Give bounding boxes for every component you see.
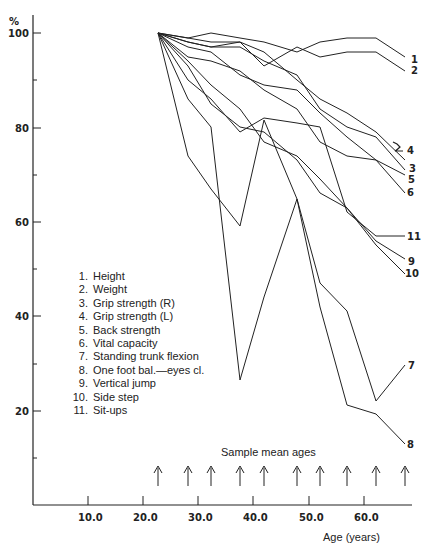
end-label-1: 1 (411, 54, 418, 65)
x-tick-10: 10.0 (78, 512, 103, 523)
legend-item: 11.Sit-ups (70, 404, 204, 417)
y-tick-100: 100 (8, 28, 29, 39)
end-label-4: 4 (407, 145, 414, 156)
end-label-2: 2 (411, 65, 418, 76)
legend-item: 4.Grip strength (L) (70, 310, 204, 323)
legend-item: 7.Standing trunk flexion (70, 350, 204, 363)
legend-item: 9.Vertical jump (70, 377, 204, 390)
legend-item: 10.Side step (70, 391, 204, 404)
x-tick-50: 50.0 (299, 512, 324, 523)
legend: 1.Height 2.Weight 3.Grip strength (R) 4.… (70, 270, 204, 417)
legend-item: 1.Height (70, 270, 204, 283)
end-label-6: 6 (407, 187, 414, 198)
sample-mean-age-arrows (154, 466, 409, 486)
x-tick-30: 30.0 (188, 512, 213, 523)
legend-item: 6.Vital capacity (70, 337, 204, 350)
x-tick-40: 40.0 (243, 512, 268, 523)
y-tick-60: 60 (15, 217, 29, 228)
end-label-10: 10 (405, 268, 419, 279)
y-tick-20: 20 (15, 406, 29, 417)
legend-item: 2.Weight (70, 283, 204, 296)
series-1-height (158, 33, 405, 57)
x-tick-20: 20.0 (133, 512, 158, 523)
y-unit-label: % (9, 16, 19, 27)
y-tick-80: 80 (15, 123, 29, 134)
end-label-9: 9 (408, 256, 415, 267)
x-axis-label: Age (years) (323, 531, 380, 543)
legend-item: 8.One foot bal.—eyes cl. (70, 364, 204, 377)
end-label-11: 11 (407, 231, 421, 242)
series-5-back-strength (158, 33, 405, 175)
end-label-5: 5 (408, 174, 415, 185)
x-tick-60: 60.0 (354, 512, 379, 523)
legend-item: 5.Back strength (70, 324, 204, 337)
chart-canvas: % 100 80 60 40 20 10.0 20.0 30.0 40.0 50… (0, 0, 430, 553)
series-2-weight (158, 33, 405, 71)
sample-mean-ages-label: Sample mean ages (221, 446, 316, 458)
end-label-3: 3 (409, 163, 416, 174)
y-tick-40: 40 (15, 311, 29, 322)
end-label-8: 8 (407, 439, 414, 450)
series-6-vital-capacity (158, 33, 405, 193)
legend-item: 3.Grip strength (R) (70, 297, 204, 310)
end-label-7: 7 (408, 360, 415, 371)
